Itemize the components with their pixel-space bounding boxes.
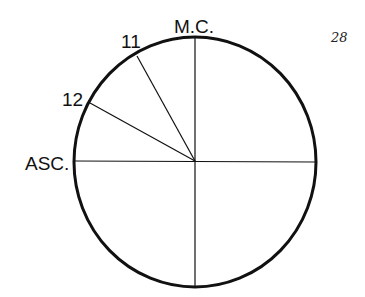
house-12-label: 12: [62, 89, 83, 110]
asc-label: ASC.: [25, 153, 69, 174]
house-diagram: M.C. 11 12 ASC. 28: [0, 0, 365, 297]
mc-label: M.C.: [174, 16, 214, 37]
page-number: 28: [330, 30, 348, 45]
house-11-label: 11: [121, 31, 141, 52]
